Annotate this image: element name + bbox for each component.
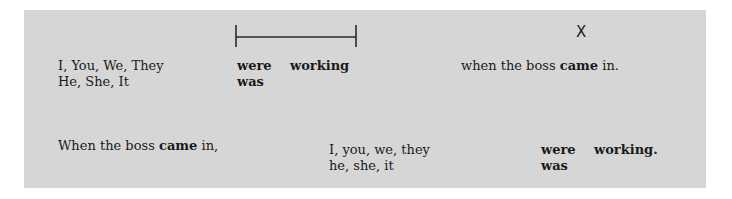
row2-subjects-plural: I, you, we, they <box>329 142 430 158</box>
row1-subjects-plural: I, You, We, They <box>58 58 164 74</box>
row2-aux-plural: were <box>541 142 576 158</box>
row2-aux-singular: was <box>541 158 568 174</box>
clause-post: in, <box>197 138 218 153</box>
row1-time-clause: when the boss came in. <box>461 58 619 74</box>
clause-post: in. <box>598 58 619 73</box>
clause-pre: when the boss <box>461 58 560 73</box>
duration-bracket-icon <box>234 24 358 48</box>
row2-verb: working. <box>594 142 658 158</box>
clause-pre: When the boss <box>58 138 159 153</box>
clause-verb: came <box>560 58 598 73</box>
row2-subjects-singular: he, she, it <box>329 158 394 174</box>
clause-verb: came <box>159 138 197 153</box>
row1-aux-plural: were <box>237 58 272 74</box>
row1-subjects-singular: He, She, It <box>58 74 129 90</box>
row1-verb: working <box>290 58 349 74</box>
row1-aux-singular: was <box>237 74 264 90</box>
point-in-time-marker: X <box>576 23 586 41</box>
row2-time-clause: When the boss came in, <box>58 138 218 154</box>
